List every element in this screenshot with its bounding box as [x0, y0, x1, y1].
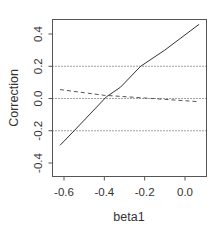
x-tick-label: -0.4 — [94, 186, 114, 198]
dashed-line — [60, 90, 199, 102]
x-axis-title: beta1 — [113, 210, 144, 224]
plot-area — [53, 20, 207, 177]
chart: -0.6-0.4-0.20.0 -0.4-0.20.00.20.4 beta1 … — [0, 0, 216, 229]
y-axis-title: Correction — [7, 69, 21, 127]
y-tick-label: 0.2 — [32, 58, 44, 74]
solid-line — [60, 24, 199, 145]
reference-lines — [53, 66, 207, 131]
y-axis: -0.4-0.20.00.20.4 — [32, 25, 53, 173]
x-axis: -0.6-0.4-0.20.0 — [54, 177, 193, 199]
data-series — [60, 24, 199, 145]
x-tick-label: -0.6 — [54, 186, 74, 198]
x-tick-label: -0.2 — [135, 186, 155, 198]
x-tick-label: 0.0 — [177, 186, 193, 198]
y-tick-label: -0.4 — [32, 152, 44, 172]
y-tick-label: 0.4 — [32, 25, 44, 42]
y-tick-label: -0.2 — [32, 121, 44, 141]
y-tick-label: 0.0 — [32, 91, 44, 107]
